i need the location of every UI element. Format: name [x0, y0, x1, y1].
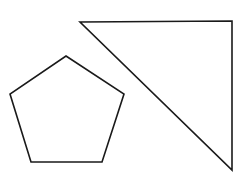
diagram-canvas: [0, 0, 249, 185]
background: [0, 0, 249, 185]
